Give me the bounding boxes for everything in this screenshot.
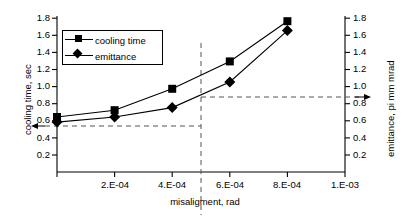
- legend-item-emittance: emittance: [63, 48, 162, 64]
- x-tick-label-4e-04: 4.E-04: [144, 180, 200, 190]
- x-axis-title: misaligment, rad: [140, 196, 270, 207]
- y-tick-label-right-1.6: 1.6: [353, 30, 377, 40]
- x-tick-label-8e-04: 8.E-04: [259, 180, 315, 190]
- y-axis-left-ticks: [52, 18, 57, 155]
- y-tick-label-right-0.6: 0.6: [353, 115, 377, 125]
- x-tick-label-6e-04: 6.E-04: [202, 180, 258, 190]
- y-tick-label-right-1.8: 1.8: [353, 13, 377, 23]
- chart-figure: 1.8 1.6 1.4 1.2 1.0 0.8 0.6 0.4 0.2 1.8 …: [0, 0, 407, 222]
- y-tick-label-left-1.6: 1.6: [28, 30, 50, 40]
- y-tick-label-left-1.8: 1.8: [28, 13, 50, 23]
- y-axis-right-ticks: [345, 18, 350, 155]
- y-axis-right-title: emittance, pi mm mrad: [385, 60, 396, 157]
- y-axis-left-title: cooling time, sec: [22, 64, 33, 135]
- y-tick-label-right-1.2: 1.2: [353, 64, 377, 74]
- legend-label-emittance: emittance: [95, 51, 136, 62]
- y-tick-label-right-0.4: 0.4: [353, 133, 377, 143]
- y-tick-label-left-1.4: 1.4: [28, 47, 50, 57]
- legend-label-cooling-time: cooling time: [95, 35, 146, 46]
- y-tick-label-right-0.8: 0.8: [353, 98, 377, 108]
- square-marker-icon: [63, 33, 95, 47]
- legend-item-cooling-time: cooling time: [63, 32, 162, 48]
- x-tick-label-1e-03: 1.E-03: [317, 180, 373, 190]
- chart-legend: cooling time emittance: [62, 30, 163, 65]
- x-tick-label-2e-04: 2.E-04: [87, 180, 143, 190]
- y-tick-label-right-1.4: 1.4: [353, 47, 377, 57]
- y-tick-label-right-1.0: 1.0: [353, 81, 377, 91]
- diamond-marker-icon: [63, 49, 95, 63]
- y-tick-label-right-0.2: 0.2: [353, 150, 377, 160]
- y-tick-label-left-0.2: 0.2: [28, 150, 50, 160]
